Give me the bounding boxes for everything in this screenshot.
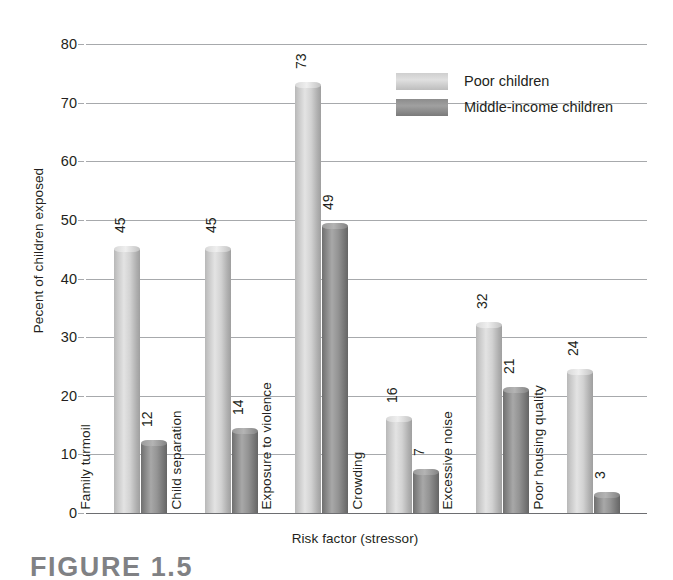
bar-cap xyxy=(141,440,167,446)
y-tick-label-20: 20 xyxy=(61,388,77,404)
y-tick-label-70: 70 xyxy=(61,95,77,111)
bar-cap xyxy=(322,223,348,229)
chart-legend: Poor childrenMiddle-income children xyxy=(396,68,656,120)
bar-value-label: 3 xyxy=(593,472,607,480)
bar-cap xyxy=(503,387,529,393)
y-tick-mark-60 xyxy=(78,161,84,162)
y-tick-label-0: 0 xyxy=(69,505,77,521)
bar-middle-income xyxy=(503,390,529,513)
bar-poor xyxy=(295,85,321,513)
bar-cap xyxy=(567,369,593,375)
legend-label: Middle-income children xyxy=(464,99,613,115)
bar-value-label: 7 xyxy=(412,448,426,456)
bar-poor xyxy=(476,325,502,513)
y-tick-label-10: 10 xyxy=(61,446,77,462)
y-axis-title: Pecent of children exposed xyxy=(31,136,46,366)
category-label: Crowding xyxy=(350,451,364,509)
bar-value-label: 32 xyxy=(475,294,489,310)
bar-cap xyxy=(386,416,412,422)
gridline-0: 0 xyxy=(86,513,647,514)
bar-cap xyxy=(205,246,231,252)
category-label: Poor housing quality xyxy=(531,385,545,509)
y-tick-label-50: 50 xyxy=(61,212,77,228)
y-tick-label-60: 60 xyxy=(61,153,77,169)
bar-value-label: 73 xyxy=(294,53,308,69)
bar-value-label: 24 xyxy=(566,341,580,357)
legend-item: Poor children xyxy=(396,68,656,94)
bar-cap xyxy=(594,492,620,498)
bar-cap xyxy=(413,469,439,475)
x-axis-title: Risk factor (stressor) xyxy=(75,531,635,546)
y-tick-mark-0 xyxy=(78,513,84,514)
bar-value-label: 45 xyxy=(204,218,218,234)
y-tick-mark-50 xyxy=(78,220,84,221)
bar-middle-income xyxy=(141,443,167,513)
category-label: Family turmoil xyxy=(79,424,93,509)
bar-value-label: 45 xyxy=(113,218,127,234)
bar-middle-income xyxy=(232,431,258,513)
bar-value-label: 12 xyxy=(140,411,154,427)
bar-poor xyxy=(114,249,140,513)
legend-item: Middle-income children xyxy=(396,94,656,120)
bar-value-label: 16 xyxy=(385,388,399,404)
bar-value-label: 49 xyxy=(321,194,335,210)
bar-cap xyxy=(476,322,502,328)
bar-poor xyxy=(386,419,412,513)
bar-poor xyxy=(205,249,231,513)
bar-cap xyxy=(295,82,321,88)
bar-middle-income xyxy=(322,226,348,513)
y-tick-mark-30 xyxy=(78,337,84,338)
y-tick-mark-20 xyxy=(78,396,84,397)
y-tick-label-30: 30 xyxy=(61,329,77,345)
figure-caption: FIGURE 1.5 xyxy=(30,552,193,580)
bar-value-label: 14 xyxy=(231,399,245,415)
legend-swatch-dark xyxy=(396,99,448,116)
bar-poor xyxy=(567,372,593,513)
y-tick-label-40: 40 xyxy=(61,271,77,287)
y-tick-mark-80 xyxy=(78,44,84,45)
bar-cap xyxy=(232,428,258,434)
bar-group: Exposure to violence7349 xyxy=(273,44,364,513)
legend-label: Poor children xyxy=(464,73,549,89)
bar-cap xyxy=(114,246,140,252)
y-tick-mark-40 xyxy=(78,279,84,280)
y-tick-label-80: 80 xyxy=(61,36,77,52)
bar-value-label: 21 xyxy=(502,358,516,374)
y-tick-mark-70 xyxy=(78,103,84,104)
category-label: Child separation xyxy=(169,410,183,509)
category-label: Excessive noise xyxy=(441,411,455,509)
legend-swatch-light xyxy=(396,73,448,90)
bar-middle-income xyxy=(413,472,439,513)
bar-middle-income xyxy=(594,495,620,513)
category-label: Exposure to violence xyxy=(260,382,274,509)
